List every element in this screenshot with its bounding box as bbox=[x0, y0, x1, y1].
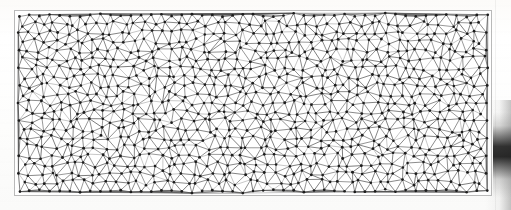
mesh-edge bbox=[271, 120, 276, 131]
mesh-edge bbox=[337, 181, 352, 182]
mesh-edge bbox=[233, 15, 240, 23]
mesh-node bbox=[386, 74, 389, 77]
mesh-edge bbox=[429, 147, 444, 150]
mesh-edge bbox=[454, 156, 460, 164]
mesh-node bbox=[21, 56, 24, 59]
mesh-node bbox=[269, 118, 272, 121]
mesh-edge bbox=[109, 21, 113, 35]
mesh-edge bbox=[164, 140, 169, 148]
mesh-node bbox=[42, 96, 45, 99]
mesh-edge bbox=[275, 112, 289, 114]
mesh-edge bbox=[253, 14, 261, 26]
mesh-edge bbox=[400, 68, 406, 79]
mesh-node bbox=[460, 37, 463, 40]
mesh-node bbox=[142, 69, 145, 72]
mesh-node bbox=[352, 48, 355, 51]
mesh-node bbox=[399, 57, 402, 60]
mesh-node bbox=[285, 56, 288, 59]
mesh-node bbox=[40, 135, 43, 138]
mesh-node bbox=[392, 152, 395, 155]
mesh-edge bbox=[433, 58, 439, 70]
mesh-node bbox=[362, 102, 365, 105]
mesh-node bbox=[401, 95, 404, 98]
mesh-edge bbox=[110, 123, 119, 128]
mesh-node bbox=[321, 39, 324, 42]
mesh-edge bbox=[83, 119, 89, 132]
mesh-node bbox=[295, 127, 298, 130]
mesh-node bbox=[401, 82, 404, 85]
mesh-edge bbox=[47, 83, 58, 95]
mesh-node bbox=[133, 93, 136, 96]
mesh-edge bbox=[214, 33, 224, 34]
mesh-edge bbox=[480, 74, 487, 86]
mesh-edge bbox=[209, 154, 218, 161]
mesh-edge bbox=[461, 83, 467, 94]
mesh-edge bbox=[299, 42, 300, 56]
mesh-node bbox=[370, 113, 373, 116]
mesh-edge bbox=[232, 155, 240, 163]
mesh-edge bbox=[41, 147, 42, 159]
mesh-node bbox=[183, 74, 186, 77]
mesh-edge bbox=[402, 96, 409, 105]
mesh-node bbox=[320, 60, 323, 63]
mesh-node bbox=[182, 143, 185, 146]
mesh-node bbox=[304, 23, 307, 26]
mesh-edge bbox=[184, 164, 195, 175]
mesh-edge bbox=[438, 162, 448, 171]
mesh-node bbox=[178, 22, 181, 25]
mesh-edge bbox=[365, 15, 375, 16]
mesh-edge bbox=[327, 24, 337, 32]
mesh-edge bbox=[18, 68, 32, 69]
mesh-edge bbox=[479, 173, 486, 183]
mesh-node bbox=[29, 127, 32, 130]
mesh-node bbox=[378, 125, 381, 128]
mesh-node bbox=[397, 145, 400, 148]
mesh-node bbox=[34, 21, 37, 24]
mesh-edge bbox=[131, 172, 136, 181]
mesh-node bbox=[348, 90, 351, 93]
mesh-edge bbox=[479, 184, 487, 191]
mesh-node bbox=[351, 153, 354, 156]
mesh-edge bbox=[386, 57, 389, 67]
mesh-edge bbox=[18, 17, 19, 33]
mesh-node bbox=[360, 25, 363, 28]
mesh-node bbox=[438, 99, 441, 102]
mesh-edge bbox=[201, 59, 208, 69]
mesh-node bbox=[137, 117, 140, 120]
mesh-edge bbox=[473, 110, 474, 120]
mesh-node bbox=[121, 102, 124, 105]
mesh-node bbox=[18, 49, 21, 52]
mesh-edge bbox=[186, 130, 198, 131]
mesh-node bbox=[273, 153, 276, 156]
mesh-node bbox=[321, 74, 324, 77]
mesh-node bbox=[313, 15, 316, 18]
mesh-node bbox=[361, 112, 364, 115]
mesh-edge bbox=[70, 16, 72, 25]
mesh-node bbox=[215, 127, 218, 130]
mesh-edge bbox=[75, 162, 79, 176]
mesh-node bbox=[269, 93, 272, 96]
mesh-edge bbox=[474, 74, 480, 87]
mesh-node bbox=[204, 33, 206, 35]
mesh-node bbox=[119, 189, 122, 192]
mesh-edge bbox=[308, 147, 321, 149]
mesh-edge bbox=[162, 102, 165, 113]
mesh-edge bbox=[327, 131, 336, 132]
mesh-edge bbox=[174, 109, 187, 110]
mesh-node bbox=[378, 143, 381, 146]
mesh-edge bbox=[242, 138, 245, 148]
mesh-node bbox=[56, 94, 59, 97]
mesh-node bbox=[243, 163, 246, 166]
mesh-node bbox=[310, 103, 313, 106]
mesh-node bbox=[386, 148, 389, 151]
mesh-edge bbox=[185, 94, 197, 97]
mesh-edge bbox=[275, 129, 291, 131]
mesh-edge bbox=[409, 105, 412, 114]
mesh-node bbox=[112, 110, 115, 113]
mesh-node bbox=[323, 14, 326, 17]
mesh-edge bbox=[99, 59, 106, 65]
mesh-edge bbox=[429, 137, 438, 150]
mesh-node bbox=[479, 162, 482, 165]
mesh-edge bbox=[463, 56, 474, 57]
mesh-edge bbox=[163, 126, 171, 140]
